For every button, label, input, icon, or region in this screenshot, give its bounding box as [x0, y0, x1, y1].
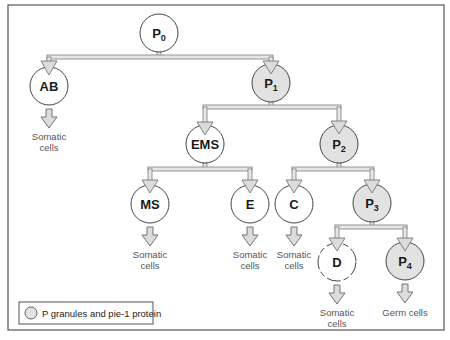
node-p0-label: P: [152, 26, 161, 41]
node-p3-label: P: [365, 196, 374, 211]
pipe-ms-drop: [148, 169, 152, 181]
fate-ab-line1: Somatic: [32, 131, 67, 142]
pipe-p2-bar: [292, 167, 374, 171]
fate-c-line2: cells: [284, 260, 303, 271]
pipe-ems-drop: [203, 107, 207, 123]
node-ems-label: EMS: [191, 137, 220, 152]
node-p2-label: P: [332, 137, 341, 152]
node-ab-label: AB: [40, 79, 59, 94]
fate-d-line2: cells: [327, 318, 346, 329]
pipe-e-drop: [248, 169, 252, 181]
pipe-p4-drop: [403, 227, 407, 239]
fate-d-line1: Somatic: [320, 307, 355, 318]
pipe-p2-drop: [337, 107, 341, 122]
fate-c-line1: Somatic: [277, 249, 312, 260]
pipe-ems-bar: [148, 167, 252, 171]
pipe-p0-bar: [47, 55, 273, 59]
fate-ab-line2: cells: [39, 142, 58, 153]
node-p4-label: P: [398, 254, 407, 269]
legend-swatch-icon: [25, 307, 37, 319]
fate-ms-line1: Somatic: [133, 249, 168, 260]
pipe-d-drop: [335, 227, 339, 239]
pipe-c-drop: [292, 169, 296, 181]
node-p0: P0: [140, 14, 178, 52]
fate-p4-line1: Germ cells: [382, 307, 428, 318]
node-d-label: D: [332, 255, 341, 270]
fate-ms-line2: cells: [140, 260, 159, 271]
node-ms-label: MS: [140, 197, 160, 212]
node-e-label: E: [246, 197, 255, 212]
fate-e-line2: cells: [240, 260, 259, 271]
node-c-label: C: [289, 197, 299, 212]
pipe-p1-bar: [203, 105, 341, 109]
node-p1-label: P: [264, 76, 273, 91]
pipe-p3-drop: [370, 169, 374, 181]
legend-label: P granules and pie-1 protein: [42, 308, 161, 319]
legend: P granules and pie-1 protein: [19, 302, 161, 324]
pipe-p3-bar: [335, 225, 407, 229]
cell-lineage-diagram: P0 AB P1 EMS P2 MS E C P3 D: [0, 0, 450, 340]
fate-e-line1: Somatic: [233, 249, 268, 260]
